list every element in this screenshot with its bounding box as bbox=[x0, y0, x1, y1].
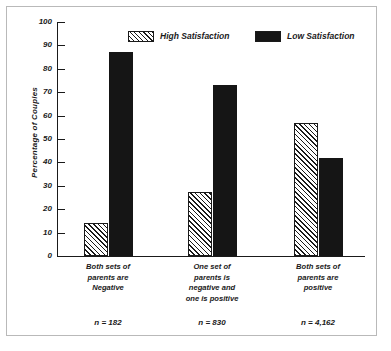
y-tick-label-80: 80 bbox=[22, 64, 52, 73]
sample-size-3: n = 4,162 bbox=[266, 318, 370, 327]
y-tick-90 bbox=[58, 45, 65, 46]
y-tick-label-40: 40 bbox=[22, 157, 52, 166]
hatch-swatch-icon bbox=[128, 31, 154, 42]
y-tick-30 bbox=[58, 186, 65, 187]
y-tick-label-60: 60 bbox=[22, 111, 52, 120]
solid-swatch-icon bbox=[255, 31, 281, 42]
bar-low-group-3 bbox=[319, 158, 343, 256]
y-tick-100 bbox=[58, 22, 65, 23]
y-tick-0 bbox=[58, 256, 65, 257]
bar-high-group-3 bbox=[294, 123, 318, 256]
category-label-line: positive bbox=[266, 283, 370, 294]
bar-low-group-2 bbox=[213, 85, 237, 256]
category-label-line: parents is bbox=[160, 273, 264, 284]
sample-size-1: n = 182 bbox=[56, 318, 160, 327]
chart-canvas: Percentage of Couples 100908070605040302… bbox=[0, 0, 391, 351]
y-tick-label-20: 20 bbox=[22, 204, 52, 213]
legend-label-low: Low Satisfaction bbox=[287, 31, 355, 41]
y-tick-40 bbox=[58, 162, 65, 163]
category-label-line: negative and bbox=[160, 283, 264, 294]
y-tick-label-10: 10 bbox=[22, 228, 52, 237]
y-tick-label-30: 30 bbox=[22, 181, 52, 190]
y-tick-label-90: 90 bbox=[22, 40, 52, 49]
y-tick-label-50: 50 bbox=[22, 134, 52, 143]
category-label-line: parents are bbox=[56, 273, 160, 284]
y-tick-60 bbox=[58, 116, 65, 117]
legend-label-high: High Satisfaction bbox=[160, 31, 229, 41]
y-tick-50 bbox=[58, 139, 65, 140]
x-axis-line bbox=[57, 256, 365, 257]
y-tick-label-0: 0 bbox=[22, 251, 52, 260]
y-tick-20 bbox=[58, 209, 65, 210]
category-label-2: One set ofparents isnegative andone is p… bbox=[160, 262, 264, 304]
category-label-line: parents are bbox=[266, 273, 370, 284]
category-label-line: Both sets of bbox=[266, 262, 370, 273]
category-label-1: Both sets ofparents areNegative bbox=[56, 262, 160, 294]
category-label-line: one is positive bbox=[160, 294, 264, 305]
bar-high-group-1 bbox=[84, 223, 108, 256]
category-label-line: One set of bbox=[160, 262, 264, 273]
y-tick-label-70: 70 bbox=[22, 87, 52, 96]
y-tick-10 bbox=[58, 233, 65, 234]
category-label-line: Both sets of bbox=[56, 262, 160, 273]
bar-low-group-1 bbox=[109, 52, 133, 256]
y-tick-80 bbox=[58, 69, 65, 70]
y-tick-70 bbox=[58, 92, 65, 93]
bar-high-group-2 bbox=[188, 192, 212, 256]
sample-size-2: n = 830 bbox=[160, 318, 264, 327]
y-tick-label-100: 100 bbox=[22, 17, 52, 26]
category-label-line: Negative bbox=[56, 283, 160, 294]
category-label-3: Both sets ofparents arepositive bbox=[266, 262, 370, 294]
